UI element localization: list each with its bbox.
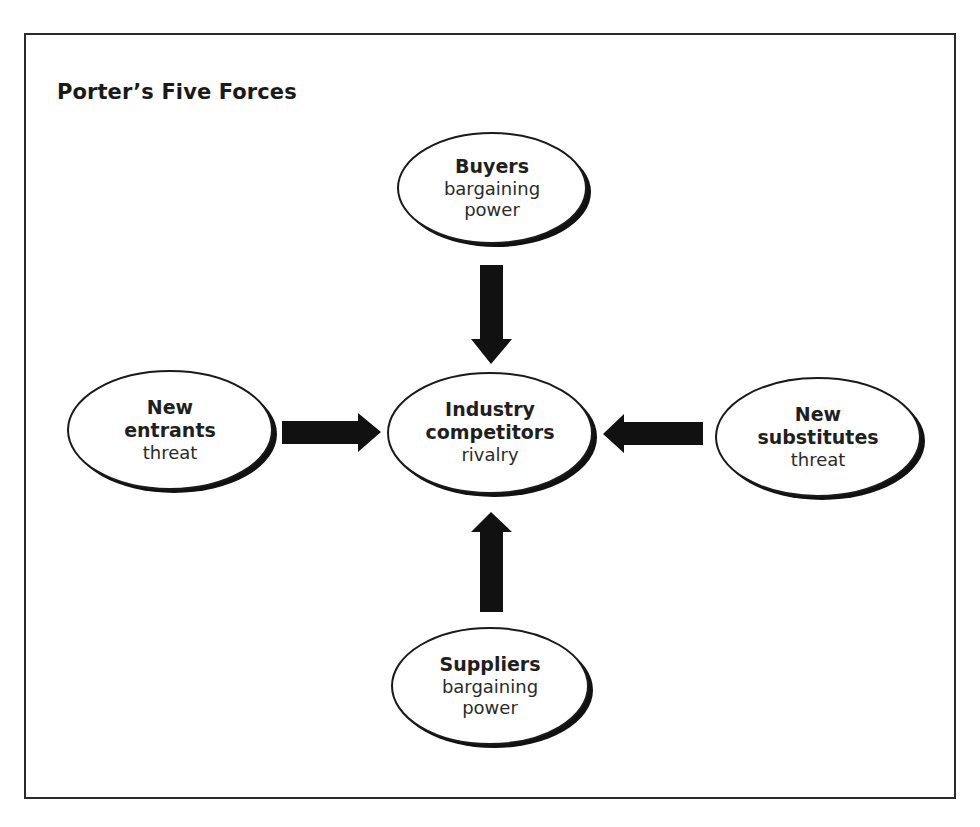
industry-subtitle: rivalry [461,444,518,466]
suppliers-subtitle-line2: power [462,697,518,719]
substitutes-title-line1: New [795,403,841,426]
buyers-node: Buyers bargaining power [398,136,586,240]
industry-node: Industry competitors rivalry [390,380,590,484]
suppliers-node: Suppliers bargaining power [394,634,586,738]
suppliers-subtitle-line1: bargaining [442,676,538,698]
arrow-down-icon [471,265,512,364]
buyers-title: Buyers [455,155,529,178]
industry-title-line2: competitors [425,421,554,444]
buyers-subtitle-line1: bargaining [444,178,540,200]
arrow-right-icon [282,413,381,452]
industry-title-line1: Industry [445,398,535,421]
new-entrants-title-line2: entrants [124,419,216,442]
substitutes-node: New substitutes threat [718,385,918,489]
substitutes-title-line2: substitutes [757,426,878,449]
new-entrants-title-line1: New [147,396,193,419]
arrow-left-icon [603,414,703,453]
substitutes-subtitle: threat [791,449,846,471]
new-entrants-subtitle: threat [143,442,198,464]
arrow-up-icon [471,512,512,612]
new-entrants-node: New entrants threat [70,378,270,482]
suppliers-title: Suppliers [439,653,540,676]
buyers-subtitle-line2: power [464,199,520,221]
